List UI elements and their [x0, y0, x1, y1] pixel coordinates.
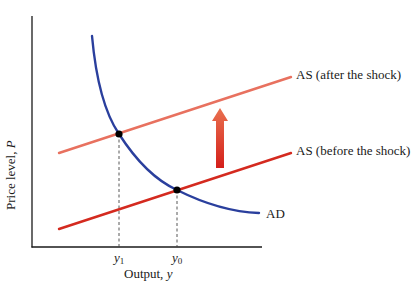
x-axis-label: Output, y: [124, 267, 172, 280]
ad-curve: [92, 36, 259, 213]
as-after-line: [59, 77, 291, 153]
y-axis-label: Price level, P: [4, 140, 17, 210]
shift-up-arrow-icon: [212, 108, 228, 168]
ad-label: AD: [266, 207, 285, 220]
equilibrium-point-after: [115, 130, 122, 137]
y-axis-label-prefix: Price level,: [3, 148, 18, 210]
tick-y1: y1: [114, 251, 124, 266]
x-axis-label-prefix: Output,: [124, 266, 167, 281]
x-axis-label-var: y: [167, 266, 173, 281]
equilibrium-point-before: [173, 186, 180, 193]
as-after-label: AS (after the shock): [296, 68, 401, 81]
tick-y0: y0: [172, 251, 182, 266]
as-before-label: AS (before the shock): [296, 144, 410, 157]
y-axis-label-var: P: [3, 140, 18, 148]
tick-y0-sub: 0: [178, 256, 183, 266]
tick-y1-sub: 1: [120, 256, 125, 266]
